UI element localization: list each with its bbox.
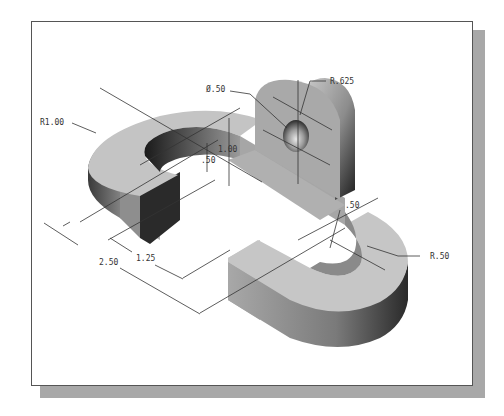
dim-outer-radius-left: R1.00 bbox=[40, 118, 64, 127]
dim-height: 1.00 bbox=[218, 145, 237, 154]
dim-slot-width: .50 bbox=[345, 201, 360, 210]
dim-boss-radius: R.625 bbox=[330, 77, 354, 86]
dim-length-overall: 2.50 bbox=[99, 258, 118, 267]
dim-inner-radius-right: R.50 bbox=[430, 252, 449, 261]
dim-slot-depth: .50 bbox=[201, 156, 216, 165]
dim-length-inner: 1.25 bbox=[136, 254, 155, 263]
dim-hole-diameter: Ø.50 bbox=[206, 84, 225, 94]
isometric-drawing: R1.00 Ø.50 R.625 .50 1.00 .50 R.50 1.25 … bbox=[0, 0, 504, 416]
